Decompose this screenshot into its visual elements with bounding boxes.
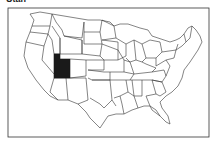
map-frame [8,8,209,137]
us-map [0,0,220,146]
